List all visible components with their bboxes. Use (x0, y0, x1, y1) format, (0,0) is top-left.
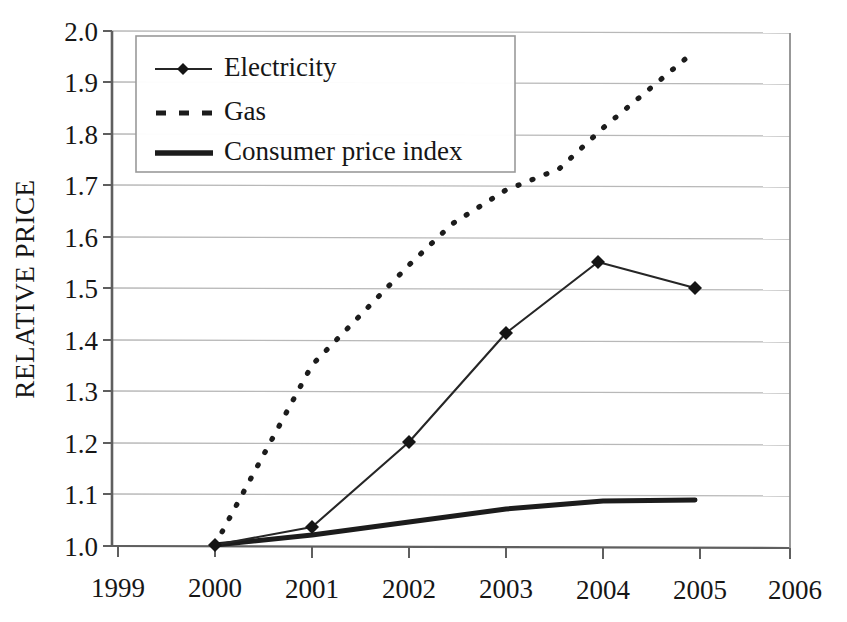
legend-label-consumer-price-index: Consumer price index (224, 136, 463, 166)
chart-canvas: 2.0 1.9 1.8 1.7 1.6 1.5 1.4 1.3 1.2 1.1 … (0, 0, 847, 622)
x-tick-label: 2002 (382, 574, 436, 604)
legend-label-gas: Gas (224, 96, 266, 126)
y-tick-label: 1.8 (64, 120, 98, 150)
y-tick-label: 2.0 (64, 17, 98, 47)
y-tick-label: 1.3 (64, 377, 98, 407)
chart-legend[interactable]: Electricity Gas Consumer price index (136, 36, 515, 172)
y-tick-label: 1.7 (64, 171, 98, 201)
y-tick-label: 1.6 (64, 223, 98, 253)
y-tick-label: 1.1 (64, 480, 98, 510)
legend-label-electricity: Electricity (224, 52, 337, 82)
x-tick-label: 2000 (188, 573, 242, 603)
x-tick-label: 2004 (576, 575, 631, 605)
relative-price-line-chart: 2.0 1.9 1.8 1.7 1.6 1.5 1.4 1.3 1.2 1.1 … (0, 0, 847, 622)
x-tick-label: 2006 (768, 575, 822, 605)
y-tick-label: 1.2 (64, 429, 98, 459)
x-tick-label: 2005 (673, 575, 727, 605)
y-axis-title: RELATIVE PRICE (10, 179, 40, 398)
y-tick-label: 1.9 (64, 68, 98, 98)
x-tick-label: 2003 (479, 574, 533, 604)
y-tick-label: 1.0 (64, 532, 98, 562)
y-tick-label: 1.4 (64, 326, 98, 356)
y-tick-label: 1.5 (64, 274, 98, 304)
x-tick-label: 1999 (91, 573, 145, 603)
x-tick-label: 2001 (285, 574, 339, 604)
